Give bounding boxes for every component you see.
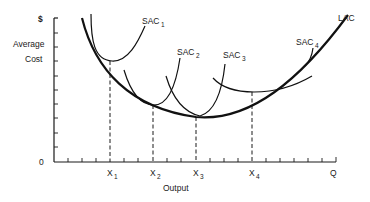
svg-text:X: X <box>107 168 113 178</box>
x-ticks <box>68 157 336 162</box>
y-axis-label-average: Average <box>13 39 45 49</box>
y-axis-label-cost: Cost <box>25 54 43 64</box>
svg-text:SAC: SAC <box>142 16 159 26</box>
x2-label: X 2 <box>150 168 161 180</box>
sac3-label: SAC 3 <box>223 50 246 62</box>
y-axis-dollar-label: $ <box>38 14 43 24</box>
svg-text:X: X <box>249 168 255 178</box>
sac2-curve <box>124 58 180 105</box>
svg-text:4: 4 <box>315 42 319 49</box>
svg-text:4: 4 <box>256 173 260 180</box>
x-axis-label-output: Output <box>163 183 189 193</box>
sac2-label: SAC 2 <box>177 47 200 59</box>
lac-label: LAC <box>338 13 355 23</box>
svg-text:3: 3 <box>200 173 204 180</box>
origin-label: 0 <box>39 157 44 167</box>
svg-text:2: 2 <box>196 52 200 59</box>
x4-label: X 4 <box>249 168 260 180</box>
svg-text:3: 3 <box>242 55 246 62</box>
sac1-curve <box>91 14 145 61</box>
x1-label: X 1 <box>107 168 118 180</box>
axes <box>54 18 336 162</box>
x3-label: X 3 <box>193 168 204 180</box>
svg-text:SAC: SAC <box>296 37 313 47</box>
svg-text:X: X <box>150 168 156 178</box>
svg-text:SAC: SAC <box>177 47 194 57</box>
svg-text:1: 1 <box>114 173 118 180</box>
svg-text:2: 2 <box>157 173 161 180</box>
svg-text:X: X <box>193 168 199 178</box>
sac3-left-branch <box>166 64 225 116</box>
svg-text:1: 1 <box>161 21 165 28</box>
sac3-curve <box>213 76 312 92</box>
dashed-guides <box>110 61 252 162</box>
sac4-label: SAC 4 <box>296 37 319 49</box>
cost-curves-diagram: $ Average Cost 0 Output Q X 1 X 2 X 3 X … <box>0 0 370 202</box>
svg-text:SAC: SAC <box>223 50 240 60</box>
x-axis-end-q-label: Q <box>330 168 337 178</box>
